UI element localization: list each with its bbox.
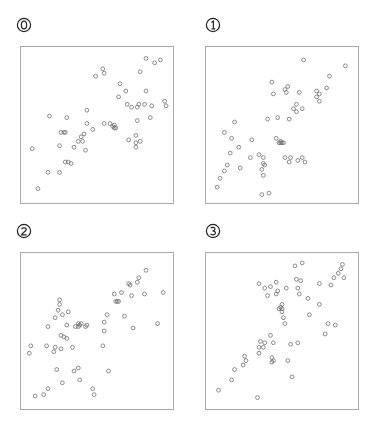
data-point	[46, 171, 50, 175]
data-point	[66, 310, 70, 314]
data-point	[153, 61, 157, 65]
data-point	[250, 138, 254, 142]
data-point	[243, 354, 247, 358]
data-point	[342, 276, 346, 280]
data-point	[27, 351, 31, 355]
data-point	[293, 264, 297, 268]
data-point	[134, 141, 138, 145]
data-point	[135, 280, 139, 284]
scatter-plot-3	[205, 252, 359, 410]
data-point	[261, 156, 265, 160]
data-point	[53, 316, 57, 320]
data-point	[84, 148, 88, 152]
data-point	[341, 263, 345, 267]
scatter-points-2	[21, 253, 173, 409]
data-point	[82, 132, 86, 136]
data-point	[102, 122, 106, 126]
data-point	[233, 120, 237, 124]
data-point	[58, 171, 62, 175]
data-point	[61, 381, 65, 385]
data-point	[297, 91, 301, 95]
data-point	[102, 320, 106, 324]
data-point	[138, 139, 142, 143]
data-point	[72, 145, 76, 149]
data-point	[161, 291, 165, 295]
data-point	[72, 369, 76, 373]
data-point	[257, 153, 261, 157]
data-point	[102, 71, 106, 75]
data-point	[117, 95, 121, 99]
data-point	[237, 145, 241, 149]
data-point	[282, 316, 286, 320]
data-point	[267, 191, 271, 195]
data-point	[58, 144, 62, 148]
data-point	[56, 308, 60, 312]
data-point	[289, 342, 293, 346]
data-point	[46, 325, 50, 329]
data-point	[261, 173, 265, 177]
data-point	[295, 102, 299, 106]
data-point	[217, 388, 221, 392]
panel-label-2: 2	[16, 223, 32, 239]
data-point	[244, 359, 248, 363]
data-point	[323, 332, 327, 336]
data-point	[328, 74, 332, 78]
data-point	[230, 136, 234, 140]
data-point	[318, 99, 322, 103]
data-point	[107, 369, 111, 373]
data-point	[266, 294, 270, 298]
data-point	[296, 159, 300, 163]
data-point	[290, 375, 294, 379]
data-point	[105, 313, 109, 317]
panel-label-1: 1	[205, 17, 221, 33]
data-point	[52, 350, 56, 354]
data-point	[284, 286, 288, 290]
data-point	[260, 193, 264, 197]
data-point	[46, 387, 50, 391]
data-point	[296, 341, 300, 345]
data-point	[131, 326, 135, 330]
circled-one-icon	[205, 17, 221, 33]
data-point	[272, 341, 276, 345]
data-point	[274, 136, 278, 140]
data-point	[58, 303, 62, 307]
data-point	[143, 102, 147, 106]
data-point	[318, 282, 322, 286]
data-point	[164, 104, 168, 108]
data-point	[287, 117, 291, 121]
data-point	[306, 297, 310, 301]
data-point	[257, 282, 261, 286]
data-point	[263, 341, 267, 345]
data-point	[223, 169, 227, 173]
data-point	[102, 329, 106, 333]
data-point	[91, 387, 95, 391]
data-point	[101, 67, 105, 71]
scatter-points-1	[206, 47, 358, 203]
data-point	[135, 119, 139, 123]
data-point	[150, 104, 154, 108]
data-point	[92, 393, 96, 397]
data-point	[266, 117, 270, 121]
data-point	[329, 283, 333, 287]
circled-two-icon	[16, 223, 32, 239]
data-point	[257, 345, 261, 349]
panel-label-0: 0	[16, 17, 32, 33]
data-point	[137, 276, 141, 280]
data-point	[94, 74, 98, 78]
data-point	[134, 145, 138, 149]
data-point	[241, 363, 245, 367]
data-point	[297, 292, 301, 296]
data-point	[295, 277, 299, 281]
data-point	[144, 268, 148, 272]
data-point	[272, 92, 276, 96]
data-point	[269, 334, 273, 338]
data-point	[55, 368, 59, 372]
data-point	[143, 292, 147, 296]
data-point	[303, 160, 307, 164]
scatter-points-3	[206, 253, 358, 409]
data-point	[257, 351, 261, 355]
data-point	[81, 139, 85, 143]
data-point	[156, 322, 160, 326]
data-point	[144, 89, 148, 93]
data-point	[127, 138, 131, 142]
